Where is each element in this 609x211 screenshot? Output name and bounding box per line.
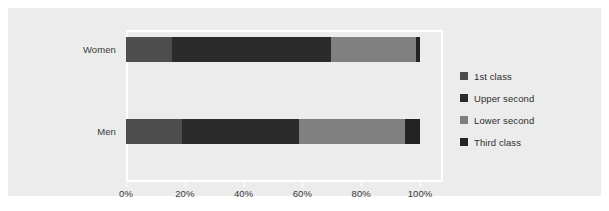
legend-item[interactable]: Lower second [460, 109, 534, 131]
x-axis-tick [244, 182, 245, 187]
x-axis-tick [302, 182, 303, 187]
bar-segment[interactable] [182, 119, 300, 144]
legend-label: 1st class [474, 71, 512, 82]
bar-segment[interactable] [405, 119, 420, 144]
x-axis-tick-label: 0% [119, 188, 133, 199]
bar-segment[interactable] [126, 119, 182, 144]
legend-item[interactable]: Upper second [460, 87, 534, 109]
legend-label: Upper second [474, 93, 534, 104]
bar-segment[interactable] [416, 37, 420, 62]
chart-figure: Women Men 0%20%40%60%80%100% 1st classUp… [0, 0, 609, 211]
x-axis-tick-label: 100% [408, 188, 433, 199]
bar-segment[interactable] [126, 37, 172, 62]
legend-swatch-icon [460, 94, 468, 102]
x-axis-tick-label: 80% [352, 188, 371, 199]
legend-label: Lower second [474, 115, 534, 126]
bar-segment[interactable] [331, 37, 416, 62]
chart-panel: Women Men 0%20%40%60%80%100% 1st classUp… [8, 8, 601, 196]
bar-row-men[interactable] [126, 119, 420, 144]
x-axis-tick-label: 40% [234, 188, 253, 199]
x-axis-tick-label: 20% [175, 188, 194, 199]
chart-legend: 1st classUpper secondLower secondThird c… [460, 65, 534, 153]
x-axis-tick-label: 60% [293, 188, 312, 199]
bar-track [126, 119, 420, 144]
legend-label: Third class [474, 137, 521, 148]
x-axis-tick [420, 182, 421, 187]
legend-swatch-icon [460, 138, 468, 146]
x-axis-tick [361, 182, 362, 187]
legend-swatch-icon [460, 116, 468, 124]
category-label-women: Women [54, 37, 116, 62]
legend-item[interactable]: Third class [460, 131, 534, 153]
legend-item[interactable]: 1st class [460, 65, 534, 87]
bar-segment[interactable] [299, 119, 405, 144]
x-axis-tick [185, 182, 186, 187]
bar-track [126, 37, 420, 62]
x-axis-tick [126, 182, 127, 187]
bar-row-women[interactable] [126, 37, 420, 62]
x-axis: 0%20%40%60%80%100% [126, 182, 420, 202]
legend-swatch-icon [460, 72, 468, 80]
bar-segment[interactable] [172, 37, 331, 62]
category-label-men: Men [54, 119, 116, 144]
